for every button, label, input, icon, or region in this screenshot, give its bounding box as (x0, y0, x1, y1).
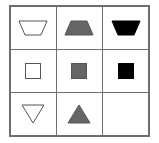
cell-r3c2 (56, 92, 103, 136)
cell-r2c2 (56, 49, 103, 93)
cell-r1c3 (102, 6, 149, 50)
inverted-trapezoid-black-icon (111, 20, 141, 36)
square-white-icon (25, 63, 41, 79)
cell-r2c1 (10, 49, 57, 93)
cell-r3c1 (10, 92, 57, 136)
inverted-triangle-white-icon (21, 104, 45, 124)
cell-r3c3-empty (102, 92, 149, 136)
triangle-gray-icon (67, 104, 91, 124)
cell-r1c1 (10, 6, 57, 50)
trapezoid-gray-icon (64, 20, 94, 36)
square-gray-icon (71, 63, 87, 79)
cell-r2c3 (102, 49, 149, 93)
puzzle-grid (9, 5, 150, 137)
inverted-trapezoid-white-icon (18, 20, 48, 36)
square-black-icon (118, 63, 134, 79)
cell-r1c2 (56, 6, 103, 50)
